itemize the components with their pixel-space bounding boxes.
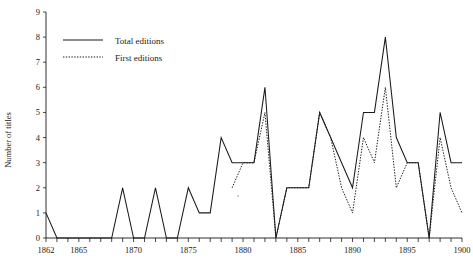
y-tick-label: 0 [36, 233, 40, 243]
x-tick-label: 1895 [399, 245, 416, 255]
chart-container: 0123456789 18621865187018751880188518901… [0, 0, 473, 264]
data-series-group [46, 37, 462, 238]
x-tick-label: 1880 [235, 245, 252, 255]
x-tick-label: 1870 [125, 245, 142, 255]
y-tick-label: 2 [36, 183, 40, 193]
artifact-speck [237, 195, 239, 197]
y-axis: 0123456789 [36, 7, 46, 243]
y-tick-label: 4 [36, 133, 41, 143]
y-axis-title: Number of titles [3, 112, 13, 168]
x-tick-label: 1900 [454, 245, 471, 255]
x-tick-label: 1890 [344, 245, 361, 255]
x-tick-label: 1865 [70, 245, 87, 255]
x-tick-label: 1875 [180, 245, 197, 255]
y-tick-label: 6 [36, 82, 40, 92]
line-chart: 0123456789 18621865187018751880188518901… [0, 0, 473, 264]
legend-label-total-editions: Total editions [115, 36, 165, 46]
x-tick-label: 1862 [38, 245, 55, 255]
series-line-total-editions [46, 37, 462, 238]
y-tick-label: 7 [36, 57, 40, 67]
y-tick-label: 3 [36, 158, 40, 168]
x-axis: 186218651870187518801885189018951900 [38, 238, 471, 255]
chart-legend: Total editionsFirst editions [63, 36, 165, 63]
y-tick-label: 8 [36, 32, 40, 42]
legend-label-first-editions: First editions [115, 53, 163, 63]
y-tick-label: 5 [36, 107, 40, 117]
y-tick-label: 9 [36, 7, 40, 17]
x-tick-label: 1885 [289, 245, 306, 255]
y-tick-label: 1 [36, 208, 40, 218]
